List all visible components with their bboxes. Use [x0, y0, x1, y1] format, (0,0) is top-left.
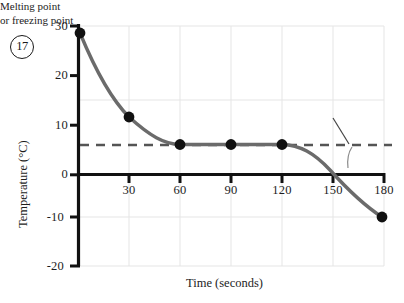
- data-point: [377, 212, 388, 223]
- y-tick-label-neg10: -10: [30, 210, 64, 225]
- y-tick-label-0: 0: [34, 167, 68, 182]
- data-point: [124, 112, 135, 123]
- cooling-curve-figure: 17: [0, 0, 404, 303]
- y-tick-label-neg20: -20: [30, 259, 64, 274]
- x-tick-label-90: 90: [213, 183, 249, 198]
- chart-canvas: [0, 0, 404, 303]
- x-tick-label-120: 120: [264, 183, 300, 198]
- x-tick-label-180: 180: [366, 183, 402, 198]
- y-tick-label-20: 20: [34, 68, 68, 83]
- x-tick-label-150: 150: [315, 183, 351, 198]
- data-point: [75, 28, 86, 39]
- y-tick-label-30: 30: [34, 19, 68, 34]
- x-tick-label-60: 60: [162, 183, 198, 198]
- y-tick-label-10: 10: [34, 118, 68, 133]
- annotation-leader-line: [333, 118, 349, 144]
- data-point: [277, 139, 288, 150]
- data-point: [226, 139, 237, 150]
- y-axis-title: Temperature (°C): [16, 140, 31, 228]
- x-axis-title: Time (seconds): [186, 276, 263, 291]
- annotation-bracket-mark: [348, 147, 352, 168]
- x-tick-label-30: 30: [111, 183, 147, 198]
- data-point: [175, 139, 186, 150]
